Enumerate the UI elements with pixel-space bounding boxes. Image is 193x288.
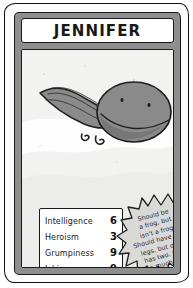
stat-label: Ickiness <box>45 262 78 268</box>
card-art-panel: Intelligence 6 Heroism 3 Grumpiness 9 Ic… <box>21 49 174 268</box>
stat-row: Heroism 3 <box>45 229 117 245</box>
creature-eye-left <box>121 98 124 102</box>
stat-row: Ickiness 9 <box>45 261 117 268</box>
stat-label: Intelligence <box>45 214 93 230</box>
card-title: JENNIFER <box>54 21 141 40</box>
title-banner: JENNIFER <box>21 18 174 43</box>
stats-box: Intelligence 6 Heroism 3 Grumpiness 9 Ic… <box>39 208 123 268</box>
stat-row: Grumpiness 9 <box>45 245 117 261</box>
trading-card: JENNIFER <box>4 3 189 283</box>
stat-row: Intelligence 6 <box>45 213 117 229</box>
speech-bubble: Should be a frog, but isn't a frog. Shou… <box>116 190 174 268</box>
creature-eye-right <box>148 103 151 107</box>
stat-label: Heroism <box>45 230 79 246</box>
stat-label: Grumpiness <box>45 246 94 262</box>
